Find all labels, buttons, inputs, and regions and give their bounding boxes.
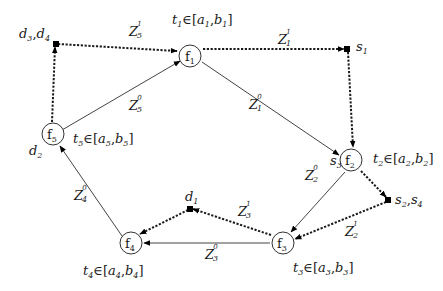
edge-z3-1-f3-to-d1 <box>193 209 271 235</box>
edge-label-z1-0: Z10 <box>248 93 262 113</box>
edge-label-z1-1: Z11 <box>277 28 291 48</box>
node-subscript: 2 <box>350 161 355 170</box>
point-label-d3d4: d3,d4 <box>19 26 50 43</box>
node-f4[interactable]: f4 <box>120 232 142 254</box>
node-f3[interactable]: f3 <box>272 232 294 254</box>
node-subscript: 5 <box>52 135 57 144</box>
edge-z2-1-s2s4-to-f3 <box>295 202 386 239</box>
edge-d1-to-f4 <box>140 210 188 234</box>
edge-z4-0-f4-to-f5 <box>60 146 122 236</box>
edge-label-z4-0: Z40 <box>73 184 87 204</box>
edge-label-z5-1: Z51 <box>128 20 142 40</box>
interval-label-f4: t4∈[a4,b4] <box>83 263 144 280</box>
interval-label-f2: t2∈[a2,b2] <box>373 151 434 168</box>
point-marker-s1 <box>344 46 350 52</box>
edge-label-z2-0: Z20 <box>304 164 318 184</box>
interval-label-f3: t3∈[a3,b3] <box>293 260 354 277</box>
point-label-d1: d1 <box>185 189 198 206</box>
node-subscript: 4 <box>130 244 135 253</box>
node-f5[interactable]: f5 <box>42 123 64 145</box>
edge-z1-0-f1-to-f2 <box>202 62 339 155</box>
edge-s1-to-f2 <box>348 52 353 147</box>
edge-z5-0-f5-to-f1 <box>62 61 180 130</box>
point-label-s3: s3 <box>330 153 342 170</box>
edge-f2-to-s2s4 <box>361 171 386 197</box>
edge-label-z3-0: Z30 <box>204 243 218 263</box>
point-label-d2: d2 <box>29 143 42 160</box>
node-subscript: 3 <box>282 244 287 253</box>
point-label-s1: s1 <box>356 39 368 56</box>
edge-label-z3-1: Z31 <box>237 200 251 220</box>
node-f1[interactable]: f1 <box>179 45 201 67</box>
edge-z5-1-d3d4-to-f1 <box>58 44 177 51</box>
point-label-s2s4: s2,s4 <box>395 192 423 209</box>
point-marker-d3d4 <box>53 41 59 47</box>
interval-label-f5: t5∈[a5,b5] <box>73 131 134 148</box>
node-f2[interactable]: f2 <box>340 149 362 171</box>
edge-label-z2-1: Z21 <box>344 220 358 240</box>
edge-label-z5-0: Z50 <box>128 94 142 114</box>
node-subscript: 1 <box>190 57 195 66</box>
process-flow-diagram: f1 f2 f3 f4 f5 t1∈[a1,b1] t2∈[a2,b2] t3∈… <box>0 0 443 291</box>
point-marker-s2s4 <box>385 197 391 203</box>
edge-f5-to-d3d4 <box>52 47 55 122</box>
interval-label-f1: t1∈[a1,b1] <box>172 12 233 29</box>
point-marker-d1 <box>187 206 193 212</box>
